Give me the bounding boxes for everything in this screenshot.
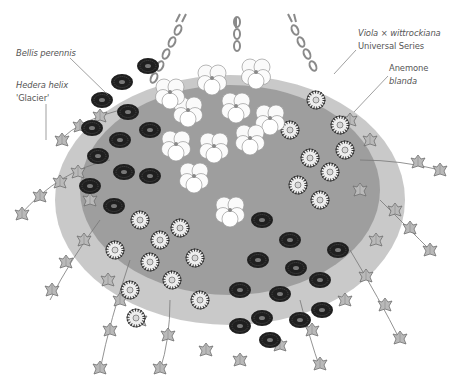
label-anemone-blanda: Anemone blanda: [389, 62, 428, 88]
label-hedera-helix: Hedera helix 'Glacier': [16, 79, 68, 105]
label-viola: Viola × wittrockiana Universal Series: [358, 27, 441, 53]
basket-illustration: Bellis perennis Hedera helix 'Glacier' V…: [0, 0, 452, 376]
chains: [149, 14, 318, 84]
label-bellis-perennis: Bellis perennis: [16, 47, 76, 60]
